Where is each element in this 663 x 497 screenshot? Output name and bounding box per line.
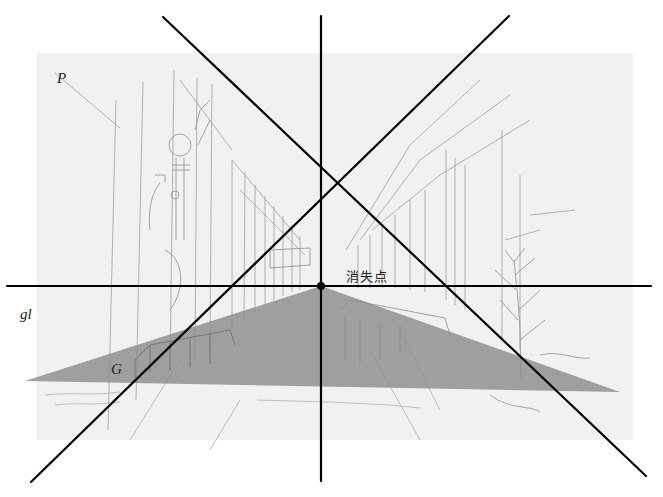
vanishing-point-marker: [317, 282, 325, 290]
label-vanishing-point: 消失点: [346, 266, 388, 285]
label-picture-plane: P: [57, 70, 66, 87]
label-ground-plane: G: [111, 361, 122, 378]
perspective-diagram: P gl G 消失点: [0, 0, 663, 497]
diagram-canvas: [0, 0, 663, 497]
label-ground-line: gl: [20, 306, 32, 323]
